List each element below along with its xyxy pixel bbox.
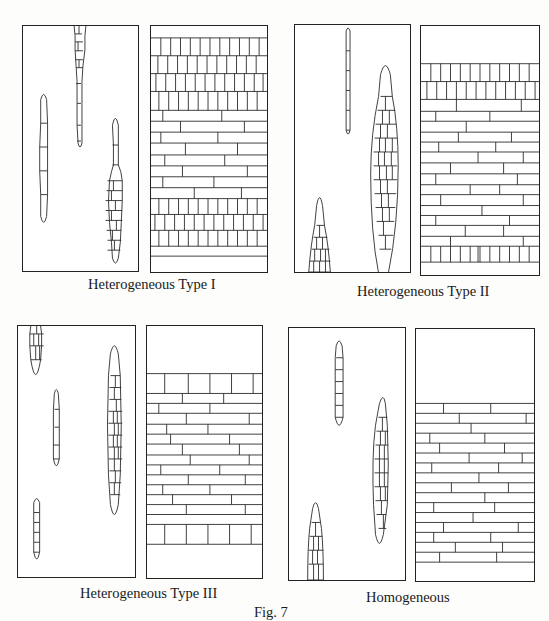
type2-tangential-section bbox=[294, 24, 411, 273]
caption-type-3: Heterogeneous Type III bbox=[80, 585, 217, 602]
type3-tangential-section bbox=[17, 325, 136, 578]
caption-type-2: Heterogeneous Type II bbox=[357, 283, 489, 300]
type2-radial-section bbox=[420, 25, 540, 276]
type1-radial-section bbox=[150, 25, 268, 273]
homogeneous-tangential-section bbox=[288, 327, 406, 581]
type1-tangential-section bbox=[22, 25, 139, 272]
type3-radial-section bbox=[146, 325, 263, 579]
caption-homogeneous: Homogeneous bbox=[366, 589, 450, 606]
caption-type-1: Heterogeneous Type I bbox=[88, 276, 216, 293]
figure-label: Fig. 7 bbox=[254, 604, 288, 621]
homogeneous-radial-section bbox=[415, 328, 535, 582]
